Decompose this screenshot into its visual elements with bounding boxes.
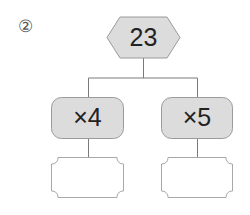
problem-number: ② <box>14 16 36 37</box>
answer-box-1[interactable] <box>52 158 124 198</box>
operation-label-1: ×4 <box>51 102 124 132</box>
root-value: 23 <box>107 22 180 52</box>
operation-label-2: ×5 <box>161 102 233 132</box>
answer-box-2[interactable] <box>162 158 233 198</box>
